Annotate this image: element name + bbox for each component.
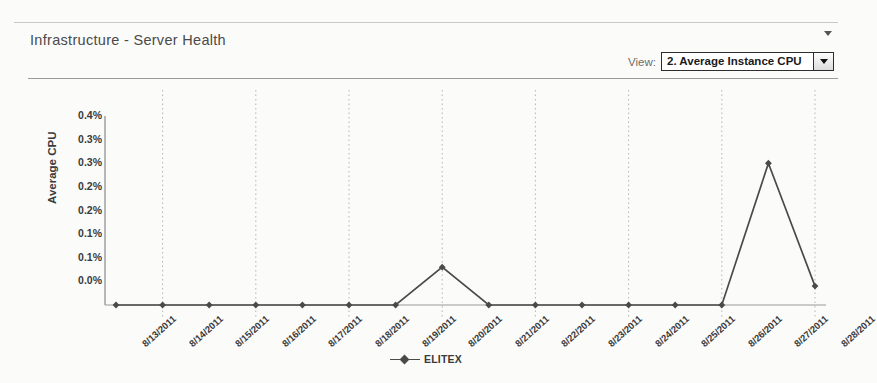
view-label: View:: [628, 56, 656, 68]
data-point-marker[interactable]: [206, 302, 213, 309]
legend-line-swatch: [390, 359, 420, 360]
chevron-down-icon[interactable]: [824, 31, 832, 36]
data-point-marker[interactable]: [765, 160, 772, 167]
view-dropdown[interactable]: 2. Average Instance CPU: [661, 52, 834, 71]
panel-header: Infrastructure - Server Health View: 2. …: [14, 22, 838, 78]
data-point-marker[interactable]: [579, 302, 586, 309]
data-point-marker[interactable]: [299, 302, 306, 309]
data-point-marker[interactable]: [625, 302, 632, 309]
data-point-marker[interactable]: [812, 283, 819, 290]
data-point-marker[interactable]: [113, 302, 120, 309]
x-tick-label: 8/28/2011: [839, 313, 877, 349]
legend-label-elitex: ELITEX: [424, 353, 462, 365]
data-point-marker[interactable]: [718, 302, 725, 309]
cpu-line-chart: Average CPU 0.4%0.3%0.3%0.2%0.2%0.1%0.1%…: [14, 82, 838, 367]
page-title: Infrastructure - Server Health: [30, 32, 226, 48]
dashboard-panel: Infrastructure - Server Health View: 2. …: [14, 22, 838, 367]
view-dropdown-value: 2. Average Instance CPU: [662, 53, 813, 70]
series-line-elitex: [116, 163, 815, 305]
data-point-marker[interactable]: [252, 302, 259, 309]
data-point-marker[interactable]: [672, 302, 679, 309]
data-point-marker[interactable]: [532, 302, 539, 309]
diamond-marker-icon: [400, 354, 410, 364]
grid-lines: [163, 90, 815, 317]
view-selector: View: 2. Average Instance CPU: [628, 52, 834, 71]
plot-area: [14, 82, 838, 367]
data-point-marker[interactable]: [346, 302, 353, 309]
data-point-marker[interactable]: [159, 302, 166, 309]
chevron-down-icon[interactable]: [813, 53, 833, 70]
header-divider: [28, 78, 838, 79]
chart-legend: ELITEX: [14, 353, 838, 365]
